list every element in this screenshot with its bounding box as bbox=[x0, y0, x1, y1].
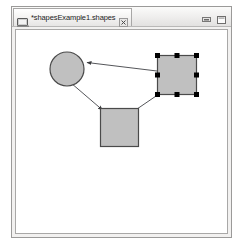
selection-handle-e[interactable] bbox=[194, 73, 199, 78]
minimize-icon[interactable] bbox=[201, 11, 212, 21]
shape-ellipse-1[interactable] bbox=[50, 52, 84, 86]
connection-rect1-to-ellipse[interactable] bbox=[87, 63, 157, 72]
shapes-diagram-file-icon bbox=[17, 13, 29, 23]
selection-handle-se[interactable] bbox=[194, 92, 199, 97]
screenshot-root: *shapesExample1.shapes bbox=[0, 0, 244, 250]
diagram-canvas[interactable] bbox=[15, 29, 228, 234]
selection-handle-ne[interactable] bbox=[194, 53, 199, 58]
shapes-editor-window: *shapesExample1.shapes bbox=[11, 6, 232, 238]
connection-ellipse-to-rect2[interactable] bbox=[71, 83, 103, 110]
shape-layer bbox=[50, 52, 197, 147]
selection-handle-w[interactable] bbox=[155, 73, 160, 78]
shape-rectangle-2[interactable] bbox=[101, 109, 139, 147]
window-controls bbox=[201, 11, 227, 21]
editor-tab-label: *shapesExample1.shapes bbox=[31, 13, 116, 22]
maximize-icon[interactable] bbox=[216, 11, 227, 21]
selection-handle-nw[interactable] bbox=[155, 53, 160, 58]
close-icon[interactable] bbox=[119, 13, 128, 22]
selection-handle-n[interactable] bbox=[175, 53, 180, 58]
shapes-diagram-svg bbox=[16, 30, 228, 234]
selection-handle-sw[interactable] bbox=[155, 92, 160, 97]
shape-rectangle-1[interactable] bbox=[158, 56, 197, 95]
editor-titlebar: *shapesExample1.shapes bbox=[12, 7, 231, 27]
editor-tab-shapes-example[interactable]: *shapesExample1.shapes bbox=[13, 8, 132, 26]
selection-handle-s[interactable] bbox=[175, 92, 180, 97]
